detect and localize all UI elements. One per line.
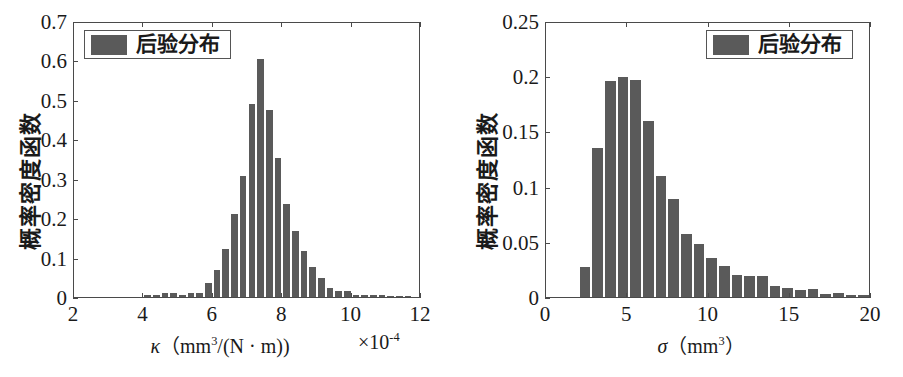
y-tick-label: 0.4	[41, 130, 67, 151]
histogram-bar	[680, 234, 693, 297]
x-tick-mark-top	[351, 22, 352, 27]
histogram-bar	[360, 295, 369, 297]
histogram-bar	[655, 176, 668, 297]
histogram-bar	[693, 244, 706, 297]
x-tick-mark	[789, 293, 790, 298]
legend-swatch-posterior-left	[91, 35, 127, 55]
plot-area-kappa	[73, 22, 420, 298]
y-tick-label: 0.1	[513, 177, 539, 198]
x-axis-exponent-left: ×10-4	[358, 330, 400, 354]
histogram-bar	[265, 110, 274, 297]
histogram-bar	[743, 276, 756, 297]
x-tick-mark	[708, 293, 709, 298]
x-axis-title-left: κ（mm3/(N · m))	[150, 330, 289, 359]
histogram-bar	[378, 295, 387, 297]
x-tick-label: 12	[410, 304, 431, 325]
histogram-bar	[213, 270, 222, 297]
histogram-bars-sigma	[546, 23, 869, 297]
legend-label-posterior-left: 后验分布	[136, 34, 220, 55]
histogram-bar	[300, 251, 309, 297]
histogram-bar	[395, 296, 404, 297]
y-tick-mark	[545, 132, 550, 133]
y-tick-mark	[545, 77, 550, 78]
x-tick-label: 6	[207, 304, 218, 325]
histogram-bar	[195, 293, 204, 297]
x-tick-label: 0	[540, 304, 551, 325]
histogram-bar	[832, 293, 845, 297]
y-tick-mark	[545, 243, 550, 244]
x-tick-mark-top	[142, 22, 143, 27]
x-tick-mark-top	[420, 22, 421, 27]
y-tick-mark	[73, 22, 78, 23]
x-tick-label: 10	[697, 304, 718, 325]
histogram-bars-kappa	[74, 23, 419, 297]
y-tick-mark	[545, 188, 550, 189]
histogram-bar	[161, 293, 170, 297]
histogram-bar	[282, 204, 291, 297]
x-tick-label: 10	[340, 304, 361, 325]
x-tick-mark	[281, 293, 282, 298]
histogram-bar	[819, 294, 832, 297]
histogram-bar	[143, 295, 152, 297]
x-tick-label: 5	[621, 304, 632, 325]
y-tick-mark	[73, 180, 78, 181]
histogram-bar	[604, 81, 617, 297]
y-tick-label: 0.2	[41, 209, 67, 230]
x-tick-mark	[351, 293, 352, 298]
y-tick-mark	[545, 298, 550, 299]
histogram-bar	[404, 296, 413, 297]
histogram-bar	[781, 288, 794, 297]
x-tick-mark-top	[789, 22, 790, 27]
histogram-bar	[334, 291, 343, 297]
y-tick-mark	[73, 298, 78, 299]
y-tick-mark	[73, 259, 78, 260]
x-tick-mark-top	[212, 22, 213, 27]
x-tick-mark-top	[870, 22, 871, 27]
y-tick-label: 0.7	[41, 12, 67, 33]
histogram-bar	[386, 296, 395, 297]
histogram-bar	[274, 158, 283, 297]
y-axis-title-right: 概率密度函数	[469, 112, 501, 250]
x-tick-mark	[870, 293, 871, 298]
histogram-bar	[794, 290, 807, 297]
histogram-bar	[352, 295, 361, 297]
legend-label-posterior-right: 后验分布	[758, 34, 842, 55]
histogram-bar	[256, 59, 265, 297]
legend-swatch-posterior-right	[713, 35, 749, 55]
x-tick-mark-top	[708, 22, 709, 27]
x-tick-mark	[420, 293, 421, 298]
x-axis-symbol-left: κ	[150, 335, 160, 357]
x-tick-mark	[626, 293, 627, 298]
histogram-bar	[221, 249, 230, 297]
y-tick-mark	[545, 22, 550, 23]
y-tick-label: 0.15	[502, 122, 539, 143]
y-tick-label: 0.6	[41, 51, 67, 72]
x-axis-symbol-right: σ	[657, 335, 667, 357]
histogram-bar	[769, 286, 782, 297]
histogram-bar	[317, 278, 326, 297]
histogram-bar	[178, 295, 187, 297]
histogram-bar	[756, 276, 769, 297]
chart-panel-kappa: 概率密度函数 2468101200.10.20.30.40.50.60.7 κ（…	[0, 0, 451, 377]
y-tick-label: 0.5	[41, 90, 67, 111]
histogram-bar	[369, 295, 378, 297]
histogram-bar	[667, 199, 680, 297]
y-axis-title-left: 概率密度函数	[12, 112, 44, 250]
chart-panel-sigma: 概率密度函数 0510152000.050.10.150.20.25 σ（mm3…	[451, 0, 903, 377]
histogram-bar	[291, 231, 300, 297]
figure-two-posterior-histograms: 概率密度函数 2468101200.10.20.30.40.50.60.7 κ（…	[0, 0, 903, 377]
y-tick-mark	[73, 101, 78, 102]
y-tick-mark	[73, 219, 78, 220]
histogram-bar	[230, 214, 239, 297]
y-tick-label: 0.1	[41, 248, 67, 269]
histogram-bar	[617, 77, 630, 297]
histogram-bar	[239, 176, 248, 297]
x-tick-mark-top	[281, 22, 282, 27]
x-tick-mark	[212, 293, 213, 298]
histogram-bar	[591, 148, 604, 297]
histogram-bar	[731, 275, 744, 297]
histogram-bar	[326, 288, 335, 297]
histogram-bar	[308, 267, 317, 297]
y-tick-label: 0	[57, 288, 68, 309]
legend-right: 后验分布	[706, 30, 853, 59]
